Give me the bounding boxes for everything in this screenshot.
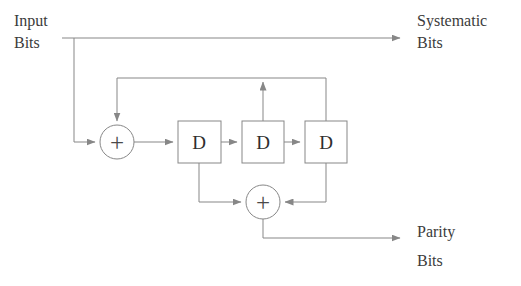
systematic-bits-label-line2: Bits: [417, 33, 443, 52]
parity-bits-label-line1: Parity: [417, 222, 455, 241]
input-bits-label-line1: Input: [14, 11, 48, 30]
input-bits-label-line2: Bits: [14, 33, 40, 52]
d3-bottom-to-adder-path: [285, 163, 326, 202]
encoder-diagram-canvas: D D D + + Input Bits Systematic Bits Par…: [0, 0, 521, 286]
parity-bits-line: [263, 219, 400, 238]
systematic-bits-label-line1: Systematic: [417, 11, 487, 30]
adder-bottom-plus-icon: +: [256, 189, 270, 216]
d1-label: D: [192, 132, 206, 153]
d2-label: D: [256, 132, 270, 153]
d1-bottom-to-adder-path: [199, 163, 241, 202]
diagram-vector-layer: D D D + +: [0, 0, 521, 286]
d3-label: D: [319, 132, 333, 153]
adder-top-plus-icon: +: [110, 129, 124, 156]
parity-bits-label-line2: Bits: [417, 251, 443, 270]
